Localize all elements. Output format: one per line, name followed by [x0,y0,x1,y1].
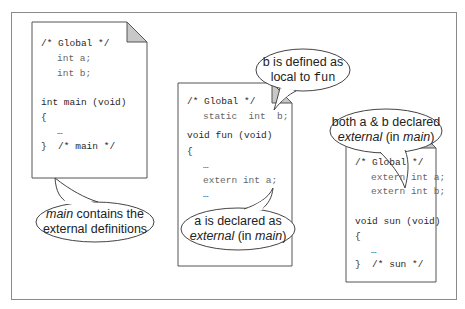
code-line: void fun (void) [187,131,273,141]
callout-fun-b-text: b is defined as local to fun [256,55,350,86]
callout-fun-a-end: ) [282,229,286,243]
callout-main-line2: external definitions [36,222,154,237]
code-line: { [187,147,193,157]
callout-main-line1: contains the [73,207,144,221]
callout-fun-b-mono: fun [314,71,336,85]
callout-sun-line1: both a & b declared [329,115,443,130]
callout-sun-end: ) [430,130,434,144]
code-line: extern int a; [203,176,277,186]
folded-corner-icon [127,22,147,42]
code-line: int main (void) [41,98,127,108]
code-line: void sun (void) [355,217,441,227]
callout-sun-italic: external [338,130,382,144]
code-line: /* Global */ [355,158,423,168]
callout-sun-italic2: main [403,130,430,144]
callout-sun-mid: (in [382,130,403,144]
callout-fun-a-line1: a is declared as [180,214,296,229]
code-line: int a; [57,54,91,64]
code-line: { [355,232,361,242]
callout-fun-b-prefix: local to [271,70,314,84]
callout-fun-a-italic: external [190,229,234,243]
code-line: … [203,190,209,200]
code-line: … [371,246,377,256]
code-line: int b; [57,69,91,79]
callout-main-text: main contains the external definitions [36,207,154,237]
callout-fun-a-mid: (in [234,229,255,243]
code-line: … [57,127,63,137]
code-line: static int b; [203,112,289,122]
callout-fun-a-italic2: main [255,229,282,243]
code-line: { [41,113,47,123]
callout-fun-a-text: a is declared as external (in main) [180,214,296,244]
callout-fun-b-line1: b is defined as [256,55,350,70]
callout-main-italic: main [46,207,73,221]
code-line: /* Global */ [187,97,255,107]
code-line: } /* sun */ [355,260,423,270]
code-line: } /* main */ [41,142,115,152]
code-line: … [203,161,209,171]
code-line: /* Global */ [41,39,109,49]
code-line: extern int a; [371,173,445,183]
code-line: extern int b; [371,187,445,197]
callout-sun-text: both a & b declared external (in main) [329,115,443,145]
